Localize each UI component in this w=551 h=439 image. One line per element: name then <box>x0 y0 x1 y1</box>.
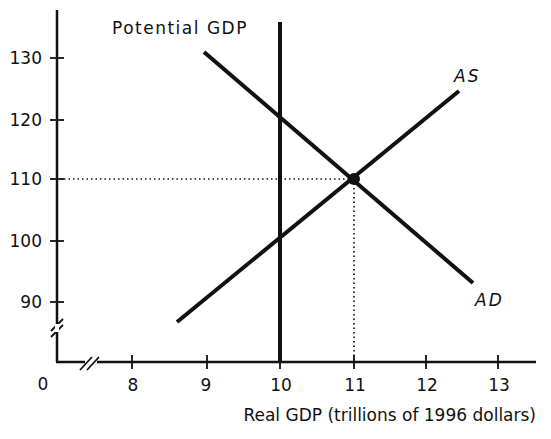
origin-label: 0 <box>38 374 49 394</box>
y-tick-label: 100 <box>10 231 42 251</box>
x-axis-break <box>80 357 99 370</box>
as-label: AS <box>453 66 480 86</box>
x-tick-label: 10 <box>270 375 292 395</box>
ad-as-chart: 130 120 110 100 90 0 8 9 10 11 12 13 Rea… <box>0 0 551 439</box>
y-tick-label: 130 <box>10 48 42 68</box>
y-tick-label: 110 <box>10 169 42 189</box>
equilibrium-point <box>348 173 360 185</box>
potential-gdp-label: Potential GDP <box>112 18 248 38</box>
ad-label: AD <box>474 290 504 310</box>
x-tick-label: 12 <box>416 375 438 395</box>
x-tick-label: 8 <box>128 375 139 395</box>
y-tick-label: 120 <box>10 110 42 130</box>
x-tick-label: 9 <box>201 375 212 395</box>
as-curve <box>177 91 459 322</box>
ad-curve <box>204 52 473 283</box>
x-tick-label: 13 <box>488 375 510 395</box>
x-axis-title: Real GDP (trillions of 1996 dollars) <box>243 405 536 425</box>
x-tick-label: 11 <box>344 375 366 395</box>
y-tick-label: 90 <box>20 292 42 312</box>
